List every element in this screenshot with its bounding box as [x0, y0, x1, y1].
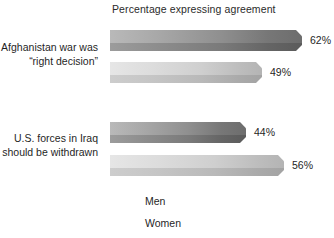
legend-label-men: Men	[145, 195, 165, 207]
bar-chart: Percentage expressing agreement Afghanis…	[0, 0, 334, 238]
bar-body	[110, 62, 262, 83]
bar-body	[110, 30, 302, 51]
legend-label-women: Women	[145, 217, 181, 229]
bar-face-top	[110, 30, 302, 43]
bar-face-bottom	[110, 168, 284, 176]
legend-swatch-men	[110, 196, 136, 209]
bar-face-bottom	[110, 43, 302, 51]
value-label-men-iraq: 44%	[254, 126, 275, 138]
bar-women-afghanistan	[110, 62, 262, 83]
bar-face-bottom	[110, 75, 262, 83]
category-label-line1: U.S. forces in Iraq	[14, 132, 98, 144]
value-label-men-afghanistan: 62%	[310, 34, 331, 46]
bar-men-iraq	[110, 122, 246, 143]
bar-face-top	[110, 122, 246, 135]
bar-shape	[110, 30, 302, 51]
bar-women-iraq	[110, 155, 284, 176]
bar-face-bottom	[110, 135, 246, 143]
category-label-iraq: U.S. forces in Iraq should be withdrawn	[0, 131, 98, 159]
bar-shape	[110, 155, 284, 176]
legend-swatch-top	[110, 218, 136, 226]
bar-body	[110, 122, 246, 143]
legend-swatch-bottom	[110, 226, 136, 231]
category-label-line2: should be withdrawn	[0, 145, 98, 159]
category-label-afghanistan: Afghanistan war was “right decision”	[0, 40, 98, 68]
bar-men-afghanistan	[110, 30, 302, 51]
legend-swatch-women	[110, 218, 136, 231]
legend-swatch-top	[110, 196, 136, 204]
bar-face-top	[110, 155, 284, 168]
category-label-line1: Afghanistan war was	[1, 41, 98, 53]
bar-face-top	[110, 62, 262, 75]
bar-shape	[110, 62, 262, 83]
bar-body	[110, 155, 284, 176]
legend-swatch-bottom	[110, 204, 136, 209]
bar-shape	[110, 122, 246, 143]
category-label-line2: “right decision”	[0, 54, 98, 68]
value-label-women-iraq: 56%	[292, 159, 313, 171]
chart-title: Percentage expressing agreement	[112, 3, 276, 15]
value-label-women-afghanistan: 49%	[270, 66, 291, 78]
